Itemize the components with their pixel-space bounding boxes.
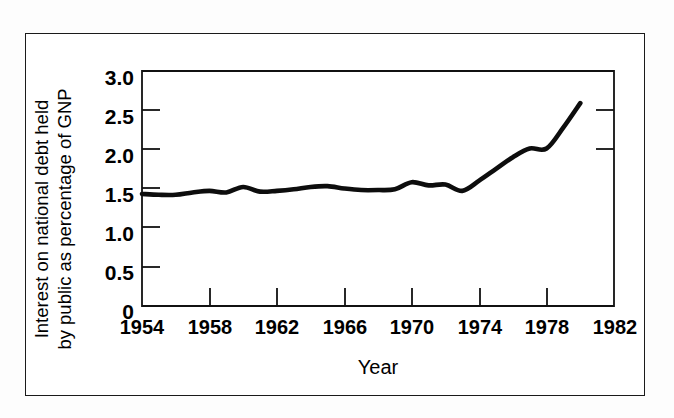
x-tick-label-1978: 1978	[525, 316, 570, 338]
y-axis-label-line2: by public as percentage of GNP	[54, 88, 75, 349]
y-tick-label-1-0: 1.0	[105, 222, 134, 245]
figure-root: Interest on national debt held by public…	[0, 0, 674, 418]
y-tick-label-3-0: 3.0	[105, 66, 134, 89]
x-tick-label-1954: 1954	[120, 316, 165, 338]
line-chart: Interest on national debt held by public…	[26, 34, 646, 397]
figure-outer-border: Interest on national debt held by public…	[25, 33, 645, 396]
data-series-line	[142, 103, 580, 195]
x-tick-label-1982: 1982	[593, 316, 638, 338]
y-tick-label-0-5: 0.5	[105, 261, 135, 284]
x-tick-label-1962: 1962	[255, 316, 300, 338]
x-axis-label: Year	[358, 356, 399, 378]
x-tick-label-1970: 1970	[390, 316, 435, 338]
x-tick-label-1966: 1966	[323, 316, 368, 338]
y-tick-label-2-5: 2.5	[105, 105, 135, 128]
x-tick-label-1974: 1974	[458, 316, 503, 338]
y-axis-label-line1: Interest on national debt held	[31, 100, 52, 339]
y-tick-label-1-5: 1.5	[105, 183, 135, 206]
x-tick-label-1958: 1958	[188, 316, 233, 338]
y-tick-label-2-0: 2.0	[105, 144, 134, 167]
